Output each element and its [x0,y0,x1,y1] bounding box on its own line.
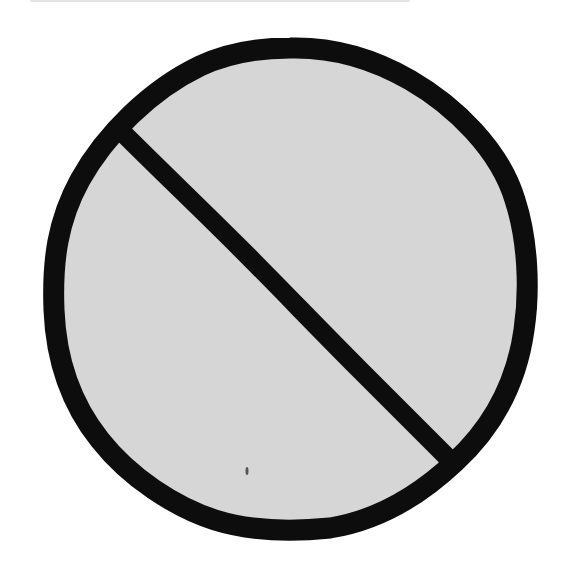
speck-mark [246,467,249,475]
prohibition-sign-canvas: Prohibition sign [0,0,584,576]
prohibited-icon [0,0,584,576]
